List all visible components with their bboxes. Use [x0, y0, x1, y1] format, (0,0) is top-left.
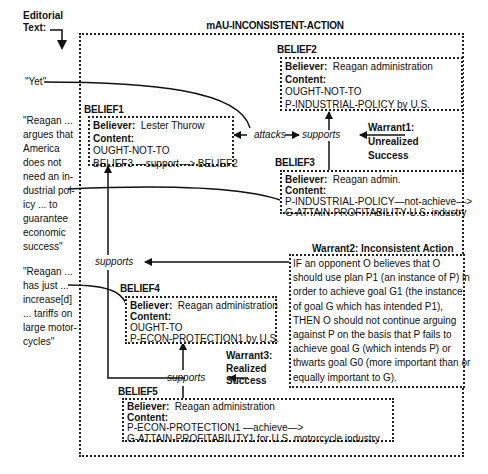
quote-line: America [23, 142, 75, 156]
warrant2-line: thwarts goal G0 (more important than or [293, 356, 461, 370]
believer-value: Reagan administration [175, 401, 275, 412]
content-key: Content: [285, 185, 459, 196]
believer-value: Reagan admin. [333, 174, 401, 185]
belief2-label: BELIEF2 [277, 44, 317, 55]
belief1-label: BELIEF1 [84, 104, 124, 115]
belief2-box: Believer: Reagan administration Content:… [280, 57, 463, 111]
quote-line: "Reagan ... [23, 114, 75, 128]
believer-key: Believer: [285, 174, 327, 185]
editorial-quote-reagan-tariffs: "Reagan ... has just ... increase[d] ...… [23, 265, 77, 349]
believer-key: Believer: [93, 120, 135, 131]
quote-line: economic [23, 226, 75, 240]
warrant2-line: IF an opponent O believes that O [293, 257, 461, 271]
belief5-box: Believer: Reagan administration Content:… [122, 398, 394, 442]
diagram-title: mAU-INCONSISTENT-ACTION [200, 20, 350, 31]
believer-key: Believer: [130, 300, 172, 311]
content-line: G-ATTAIN-PROFITABILITY U.S. industry [285, 207, 459, 218]
warrant2-line: achieve goal G (which intends P) or [293, 342, 461, 356]
belief3-label: BELIEF3 [275, 157, 315, 168]
warrant3-label: Warrant3: Realized Success [226, 350, 272, 388]
believer-key: Believer: [285, 61, 327, 72]
belief1-box: Believer: Lester Thurow Content: OUGHT-N… [88, 116, 234, 166]
quote-line: "Reagan ... [23, 265, 77, 279]
warrant2-line: of goal G which has intended P1), [293, 300, 461, 314]
content-line: P-ECON-PROTECTION1 —achieve—> [127, 423, 389, 434]
quote-line: ... tariffs on [23, 307, 77, 321]
content-line: P-INDUSTRIAL-POLICY by U.S. [285, 99, 458, 112]
content-line: G-ATTAIN-PROFITABILITY1 for U.S. motorcy… [127, 434, 389, 445]
warrant1-label: Warrant1: Unrealized Success [368, 121, 419, 163]
warrant-line: Warrant1: [368, 121, 419, 135]
warrant-line: Success [368, 149, 419, 163]
quote-line: argues that [23, 128, 75, 142]
editorial-text-label: Editorial Text: [23, 10, 63, 34]
belief4-box: Believer: Reagan administration Content:… [125, 296, 277, 344]
warrant-line: Warrant3: [226, 350, 272, 363]
warrant2-line: against P on the basis that P fails to [293, 328, 461, 342]
warrant-line: Success [226, 375, 272, 388]
warrant-line: Realized [226, 363, 272, 376]
belief4-label: BELIEF4 [120, 283, 160, 294]
quote-line: large motor- [23, 321, 77, 335]
believer-value: Reagan administration [178, 300, 278, 311]
content-line: BELIEF3 —support—> BELIEF2 [93, 158, 229, 171]
quote-line: icy ... to [23, 198, 75, 212]
attacks-relation: attacks [254, 129, 286, 140]
content-key: Content: [285, 74, 458, 87]
supports-relation-mid: supports [95, 256, 133, 267]
warrant2-line: should use plan P1 (an instance of P) in [293, 271, 461, 285]
quote-line: "Yet" [25, 75, 46, 89]
quote-line: dustrial pol- [23, 184, 75, 198]
content-line: OUGHT-TO [130, 322, 272, 333]
editorial-quote-yet: "Yet" [25, 75, 46, 89]
editorial-label-line1: Editorial [23, 10, 63, 22]
warrant2-line: equally important to G). [293, 371, 461, 385]
content-line: P-INDUSTRIAL-POLICY—not-achieve—> [285, 196, 459, 207]
quote-line: increase[d] [23, 293, 77, 307]
supports-relation-bottom: supports [167, 372, 205, 383]
warrant2-box: IF an opponent O believes that O should … [289, 254, 465, 388]
belief5-label: BELIEF5 [118, 386, 158, 397]
content-line: P-ECON-PROTECTION1 by U.S. [130, 333, 272, 344]
quote-line: success" [23, 240, 75, 254]
content-line: OUGHT-NOT-TO [285, 86, 458, 99]
believer-value: Reagan administration [333, 61, 433, 72]
warrant2-line: order to achieve goal G1 (the instance [293, 285, 461, 299]
supports-relation-top: supports [302, 129, 340, 140]
quote-line: does not [23, 156, 75, 170]
quote-line: cycles" [23, 335, 77, 349]
content-line: OUGHT-NOT-TO [93, 145, 229, 158]
believer-key: Believer: [127, 401, 169, 412]
believer-value: Lester Thurow [141, 120, 205, 131]
warrant-line: Unrealized [368, 135, 419, 149]
quote-line: guarantee [23, 212, 75, 226]
content-key: Content: [93, 133, 229, 146]
belief3-box: Believer: Reagan admin. Content: P-INDUS… [280, 170, 464, 214]
quote-line: has just ... [23, 279, 77, 293]
content-key: Content: [130, 311, 272, 322]
editorial-pointer-arrowhead [57, 40, 67, 50]
warrant2-line: THEN O should not continue arguing [293, 314, 461, 328]
editorial-quote-reagan-argues: "Reagan ... argues that America does not… [23, 114, 75, 254]
editorial-label-line2: Text: [23, 22, 63, 34]
quote-line: need an in- [23, 170, 75, 184]
